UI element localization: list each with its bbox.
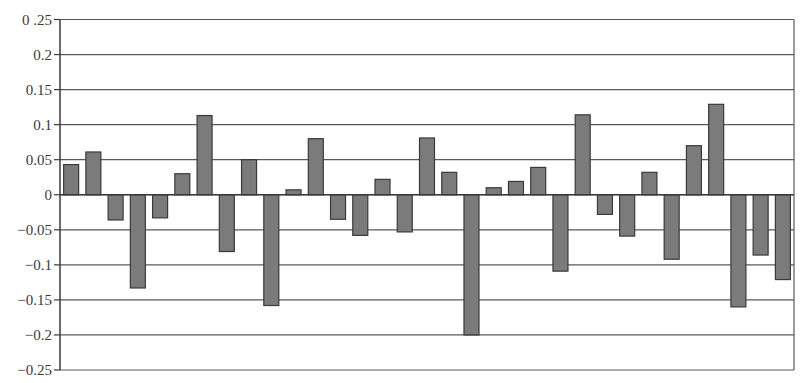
y-axis-tick-labels: 0 .250.20.150.10.050−0.05−0.1−0.15−0.2−0… [17,12,52,379]
y-tick-label: −0.05 [17,222,52,238]
bar [353,195,368,236]
bar [775,195,790,280]
y-tick-label: 0 [45,187,53,203]
y-tick-label: 0.05 [26,152,52,168]
bar [108,195,123,220]
bar [130,195,145,288]
bar [442,172,457,194]
bar [486,188,501,195]
bar [420,138,435,195]
bar [508,181,523,194]
bar [331,195,346,220]
bar [264,195,279,306]
bar [731,195,746,307]
bar-chart: 0 .250.20.150.10.050−0.05−0.1−0.15−0.2−0… [0,0,801,383]
bar [242,160,257,195]
y-tick-label: 0.2 [33,47,52,63]
bar [664,195,679,259]
bar [597,195,612,215]
bar [375,179,390,194]
y-tick-label: 0.1 [33,117,52,133]
axes [54,20,794,371]
bar [686,146,701,195]
bar [642,172,657,194]
y-tick-label: 0 .25 [22,12,52,28]
y-tick-label: −0.2 [25,327,52,343]
y-tick-label: −0.15 [17,292,52,308]
bar [286,190,301,195]
bar [753,195,768,255]
y-tick-label: −0.25 [17,362,52,378]
bar [575,115,590,195]
bar [709,104,724,194]
bar [308,139,323,195]
bar [464,195,479,335]
y-tick-label: 0.15 [26,82,52,98]
bar [531,167,546,194]
y-tick-label: −0.1 [25,257,52,273]
bar [197,116,212,195]
bar [553,195,568,271]
bar [64,165,79,195]
bar [175,174,190,195]
bar [397,195,412,232]
bar [86,152,101,195]
bar [620,195,635,236]
bar [153,195,168,218]
bar [219,195,234,252]
